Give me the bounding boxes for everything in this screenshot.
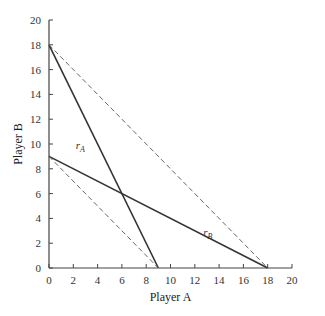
chart: 0246810121416182002468101214161820rArBPl… — [0, 0, 325, 316]
x-tick-label: 8 — [143, 274, 149, 286]
x-tick-label: 14 — [214, 274, 226, 286]
y-axis-label: Player B — [11, 123, 25, 165]
y-tick-label: 0 — [36, 262, 42, 274]
x-tick-label: 18 — [262, 274, 274, 286]
x-axis-label: Player A — [150, 290, 192, 304]
y-tick-label: 18 — [30, 39, 42, 51]
x-tick-label: 2 — [71, 274, 77, 286]
y-tick-label: 4 — [36, 212, 42, 224]
x-tick-label: 4 — [95, 274, 101, 286]
y-tick-label: 20 — [30, 14, 42, 26]
curve-label-r_B: rB — [203, 226, 212, 241]
y-tick-label: 12 — [30, 113, 41, 125]
x-tick-label: 10 — [165, 274, 177, 286]
series-line-r_B — [49, 156, 268, 268]
x-tick-label: 12 — [189, 274, 200, 286]
x-tick-label: 16 — [238, 274, 250, 286]
y-tick-label: 2 — [36, 237, 42, 249]
series-line-r_A — [49, 45, 158, 268]
y-tick-label: 10 — [30, 138, 42, 150]
curve-label-r_A: rA — [76, 139, 85, 154]
series-line-outer-dashed — [49, 45, 268, 268]
x-tick-label: 6 — [119, 274, 125, 286]
y-tick-label: 14 — [30, 88, 42, 100]
y-tick-label: 6 — [36, 188, 42, 200]
x-tick-label: 20 — [287, 274, 299, 286]
y-tick-label: 8 — [36, 163, 42, 175]
x-tick-label: 0 — [46, 274, 52, 286]
y-tick-label: 16 — [30, 64, 42, 76]
series-line-inner-dashed — [49, 156, 158, 268]
